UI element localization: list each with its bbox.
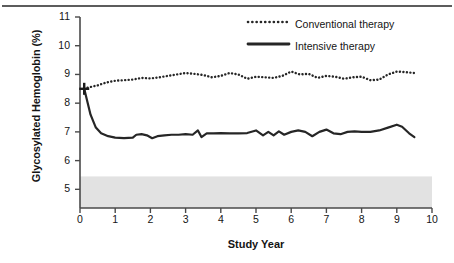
x-tick-label: 1 — [103, 214, 127, 225]
figure-panel: Glycosylated Hemoglobin (%) Study Year N… — [0, 0, 454, 263]
x-tick-label: 9 — [385, 214, 409, 225]
y-tick-label: 7 — [46, 126, 70, 137]
normal-band — [80, 176, 432, 208]
y-tick-label: 5 — [46, 183, 70, 194]
x-tick-label: 5 — [244, 214, 268, 225]
x-tick-label: 8 — [350, 214, 374, 225]
x-tick-label: 10 — [420, 214, 444, 225]
x-tick-label: 0 — [68, 214, 92, 225]
series-line-intensive — [84, 89, 414, 138]
x-tick-label: 7 — [314, 214, 338, 225]
x-tick-label: 2 — [138, 214, 162, 225]
y-tick-label: 11 — [46, 11, 70, 22]
series-line-conventional — [84, 72, 414, 89]
legend — [248, 22, 289, 44]
y-tick-label: 8 — [46, 97, 70, 108]
legend-label-intensive: Intensive therapy — [295, 40, 375, 52]
normal-range-band — [80, 176, 432, 208]
y-tick-label: 10 — [46, 40, 70, 51]
legend-label-conventional: Conventional therapy — [295, 18, 394, 30]
y-tick-label: 6 — [46, 155, 70, 166]
y-tick-label: 9 — [46, 68, 70, 79]
x-tick-label: 6 — [279, 214, 303, 225]
x-tick-label: 4 — [209, 214, 233, 225]
x-tick-label: 3 — [174, 214, 198, 225]
data-series — [79, 72, 414, 139]
